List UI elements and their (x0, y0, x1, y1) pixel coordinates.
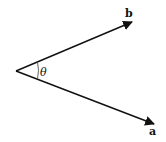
vector-a-label: a (149, 125, 156, 138)
vector-diagram: θ b a (0, 0, 166, 142)
angle-arc (38, 62, 39, 79)
vector-b-arrow (16, 22, 132, 71)
vector-b-label: b (125, 7, 133, 20)
vector-a-arrow (16, 71, 154, 124)
angle-label-theta: θ (40, 66, 47, 79)
